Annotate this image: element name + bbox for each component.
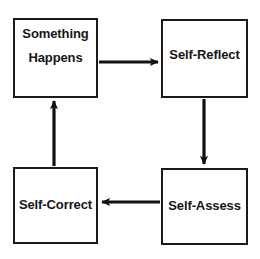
node-something-happens[interactable]: Something Happens [13, 18, 98, 98]
node-label-something-happens-line-1: Something [22, 27, 88, 40]
node-label-something-happens-line-2: Happens [28, 51, 82, 64]
node-label-self-reflect: Self-Reflect [169, 48, 239, 61]
node-self-assess[interactable]: Self-Assess [161, 168, 248, 245]
node-self-reflect[interactable]: Self-Reflect [161, 19, 248, 98]
node-self-correct[interactable]: Self-Correct [13, 167, 98, 244]
flowchart-diagram: Something Happens Self-Reflect Self-Asse… [0, 0, 260, 259]
node-label-self-correct: Self-Correct [19, 198, 92, 211]
node-label-self-assess: Self-Assess [168, 199, 241, 212]
